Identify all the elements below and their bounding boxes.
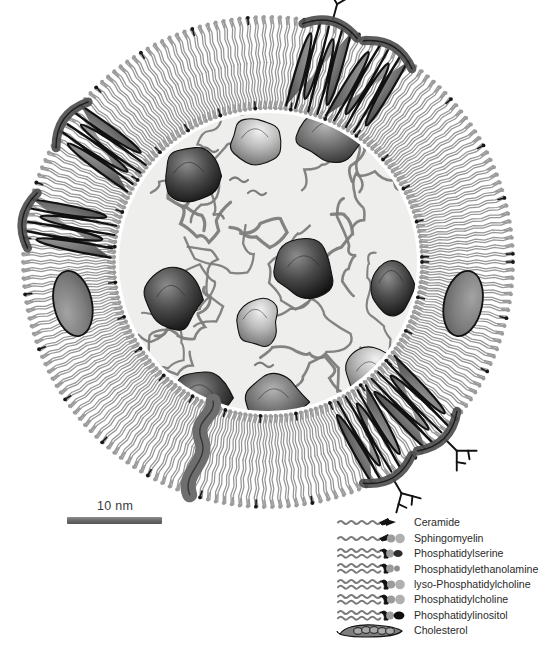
legend-item-label: Cholesterol — [408, 625, 468, 636]
scale-bar-rule — [67, 517, 162, 524]
legend-item: Ceramide — [336, 515, 536, 530]
legend-item: Phosphatidylethanolamine — [336, 561, 536, 576]
lipid-two-gray-heads-icon — [336, 577, 408, 592]
legend-item: Phosphatidylcholine — [336, 592, 536, 607]
legend-item-label: Sphingomyelin — [408, 533, 484, 544]
lipid-black-head-icon — [336, 608, 408, 623]
lipid-tail-chain-icon — [336, 515, 408, 530]
legend-item: Phosphatidylserine — [336, 546, 536, 561]
legend-item: Cholesterol — [336, 623, 536, 638]
lipid-two-gray-heads-icon — [336, 592, 408, 607]
scale-bar: 10 nm — [60, 500, 170, 524]
legend: CeramideSphingomyelinPhosphatidylserineP… — [336, 515, 536, 638]
legend-item-label: Phosphatidylinositol — [408, 610, 508, 621]
lipid-small-gray-head-icon — [336, 561, 408, 576]
legend-item: Sphingomyelin — [336, 530, 536, 545]
legend-item-label: Phosphatidylethanolamine — [408, 564, 538, 575]
legend-item-label: lyso-Phosphatidylcholine — [408, 579, 531, 590]
scale-bar-label: 10 nm — [60, 500, 170, 513]
legend-item-label: Phosphatidylcholine — [408, 594, 508, 605]
lipid-two-gray-heads-icon — [336, 531, 408, 546]
legend-item-label: Ceramide — [408, 517, 460, 528]
cholesterol-ring-icon — [336, 623, 408, 638]
legend-item: lyso-Phosphatidylcholine — [336, 577, 536, 592]
legend-item: Phosphatidylinositol — [336, 607, 536, 622]
legend-item-label: Phosphatidylserine — [408, 548, 504, 559]
lipid-dark-small-head-icon — [336, 546, 408, 561]
